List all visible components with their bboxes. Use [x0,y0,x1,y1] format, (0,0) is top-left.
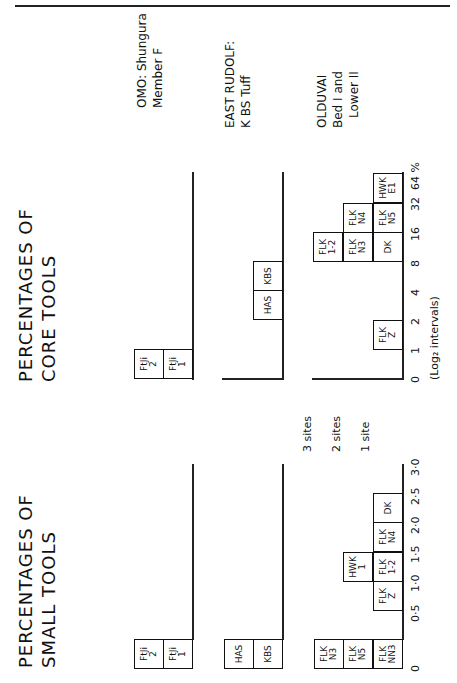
small-title-line1: PERCENTAGES OF [17,494,35,668]
core-tick-4: 4 [410,289,421,296]
small-tick-2-5: 2·5 [410,488,421,506]
small-tick-2-0: 2·0 [410,517,421,535]
locality-omo-line1: OMO: Shungura [136,13,148,108]
small-old-box-dk: DK [373,493,403,523]
core-tick-1: 1 [410,347,421,354]
small-old-box-flk-z: FLK Z [373,581,403,611]
small-east-axis-vertical [282,464,284,640]
locality-east-line2: K BS Tuff [240,75,252,128]
core-old-box-flk-n3: FLK N3 [343,232,373,262]
scale-1-site: 1 site [360,422,371,452]
small-east-box-has: HAS [224,639,254,669]
small-old-box-flk-n4: FLK N4 [373,522,403,552]
core-omo-box-ftji1: FtJi 1 [163,349,193,379]
core-tick-16: 16 [410,227,421,241]
small-east-box-kbs: KBS [253,639,283,669]
small-omo-axis-vertical [192,464,194,640]
locality-olduvai-line1: OLDUVAI [316,75,328,128]
core-old-box-flk-n5: FLK N5 [373,203,403,233]
scale-3-sites: 3 sites [302,416,313,452]
small-old-box-flk-nn3: FLK NN3 [373,639,403,669]
small-tick-1-5: 1·5 [410,546,421,564]
core-east-box-has: HAS [253,290,283,320]
locality-olduvai-line2: Bed I and [332,71,344,128]
locality-olduvai-line3: Lower II [348,71,360,118]
core-tick-2: 2 [410,318,421,325]
top-rule [15,5,450,7]
small-tick-3-0: 3·0 [410,459,421,477]
core-old-box-flk-z: FLK Z [373,320,403,350]
core-east-axis-base [222,378,284,380]
core-tick-8: 8 [410,260,421,267]
core-omo-box-ftji2: FtJi 2 [134,349,164,379]
small-old-box-hwk-1: HWK 1 [343,552,373,582]
core-tick-64: 64 % [410,162,421,190]
small-old-box-flk-1-2: FLK 1-2 [373,552,403,582]
locality-east-line1: EAST RUDOLF: [224,41,236,128]
core-old-box-hwk-e1: HWK E1 [373,173,403,203]
core-tick-32: 32 [410,197,421,211]
small-old-box-flk-n3: FLK N3 [314,639,344,669]
core-tick-0: 0 [410,376,421,383]
small-tick-1-0: 1·0 [410,575,421,593]
core-olduvai-axis-base [312,378,404,380]
scale-2-sites: 2 sites [331,416,342,452]
locality-omo-line2: Member F [152,48,164,108]
core-axis-label: (Log₂ intervals) [429,296,440,380]
small-tick-0-5: 0·5 [410,605,421,623]
core-old-box-flk-n4: FLK N4 [343,203,373,233]
core-title-line2: CORE TOOLS [40,255,58,382]
core-east-box-kbs: KBS [253,261,283,291]
core-title-line1: PERCENTAGES OF [17,208,35,382]
core-old-box-flk-1-2: FLK 1-2 [313,232,343,262]
small-tick-0: 0 [410,665,421,672]
small-omo-box-ftji1: FtJi 1 [163,639,193,669]
small-title-line2: SMALL TOOLS [40,531,58,668]
core-old-box-dk: DK [373,232,403,262]
small-omo-box-ftji2: FtJi 2 [134,639,164,669]
small-old-box-flk-n5: FLK N5 [343,639,373,669]
